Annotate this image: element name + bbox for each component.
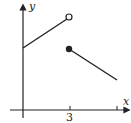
filled-circle-endpoint (66, 46, 72, 52)
left-segment (23, 19, 67, 48)
x-tick-label-3: 3 (66, 111, 73, 123)
right-segment (69, 49, 117, 80)
x-axis-label: x (123, 95, 130, 108)
open-circle-endpoint (66, 14, 72, 20)
y-axis-label: y (28, 0, 36, 13)
piecewise-graph: y x 3 (0, 0, 131, 123)
